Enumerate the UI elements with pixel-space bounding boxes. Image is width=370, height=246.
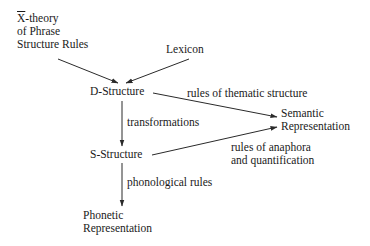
phonetic-line-2: Representation bbox=[83, 222, 152, 235]
anaphora-line-2: and quantification bbox=[231, 154, 314, 167]
edge-label-thematic: rules of thematic structure bbox=[187, 87, 307, 100]
xbar-theory-line-3: Structure Rules bbox=[17, 38, 88, 51]
node-phonetic-representation: Phonetic Representation bbox=[83, 209, 152, 235]
edge-label-phonological: phonological rules bbox=[127, 176, 212, 189]
anaphora-line-1: rules of anaphora bbox=[231, 141, 314, 154]
arrow-xbar-to-dstructure bbox=[58, 59, 118, 83]
arrow-lexicon-to-dstructure bbox=[126, 59, 189, 83]
semantic-line-2: Representation bbox=[281, 120, 350, 133]
semantic-line-1: Semantic bbox=[281, 107, 350, 120]
edge-label-anaphora: rules of anaphora and quantification bbox=[231, 141, 314, 167]
edge-label-transformations: transformations bbox=[127, 116, 199, 129]
node-semantic-representation: Semantic Representation bbox=[281, 107, 350, 133]
node-xbar-theory: X-theory of Phrase Structure Rules bbox=[17, 12, 88, 51]
xbar-theory-line-2: of Phrase bbox=[17, 25, 88, 38]
phonetic-line-1: Phonetic bbox=[83, 209, 152, 222]
node-lexicon: Lexicon bbox=[166, 43, 204, 56]
node-d-structure: D-Structure bbox=[90, 85, 144, 98]
xbar-theory-line-1: X-theory bbox=[17, 12, 88, 25]
node-s-structure: S-Structure bbox=[90, 148, 142, 161]
